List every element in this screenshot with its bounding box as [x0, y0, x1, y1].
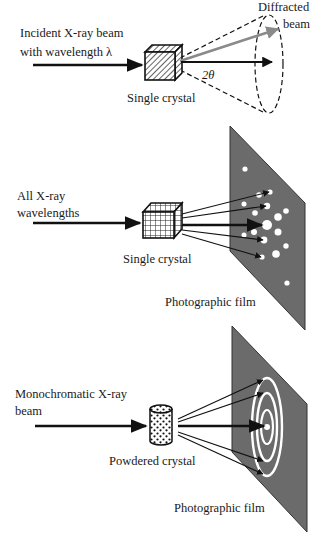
incident-label-line1: Incident X-ray beam	[20, 26, 124, 40]
panel-laue-method: All X-ray wavelengths Single crystal Pho…	[17, 126, 305, 330]
sample-label: Powdered crystal	[109, 454, 196, 468]
sample-label: Single crystal	[127, 91, 196, 105]
incident-label-line2: wavelengths	[17, 206, 80, 220]
angle-label: 2θ	[202, 68, 214, 82]
incident-label-line1: Monochromatic X-ray	[15, 387, 128, 401]
incident-label-line1: All X-ray	[17, 189, 66, 203]
detector-label: Photographic film	[165, 295, 256, 309]
powder-cylinder-icon	[150, 405, 172, 445]
diffracted-beam-arrow	[180, 29, 278, 61]
incident-label-line2: with wavelength λ	[20, 45, 112, 59]
diffracted-label-line1: Diffracted	[258, 0, 310, 14]
xray-diffraction-diagram: Incident X-ray beam with wavelength λ 2θ…	[0, 0, 334, 548]
hatched-cube-icon	[145, 45, 182, 80]
incident-label-line2: beam	[15, 404, 42, 418]
panel-powder-method: Monochromatic X-ray beam Powdered crysta…	[15, 326, 307, 532]
detector-label: Photographic film	[174, 501, 265, 515]
sample-label: Single crystal	[123, 252, 192, 266]
diffraction-cone	[180, 15, 283, 113]
panel-single-crystal-monochromatic: Incident X-ray beam with wavelength λ 2θ…	[20, 0, 310, 113]
diffracted-label-line2: beam	[283, 17, 310, 31]
grid-cube-icon	[143, 203, 182, 238]
